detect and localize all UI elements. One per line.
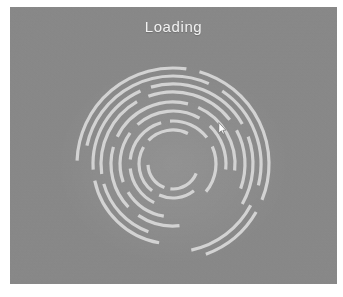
spinner-arc: [206, 147, 216, 192]
spinner-arc: [159, 191, 194, 198]
spinner-arc: [148, 165, 164, 188]
spinner-arc-group: [77, 68, 269, 254]
spinner-arcs-svg: [10, 7, 337, 284]
spinner-arc: [139, 147, 152, 191]
spinner-arc: [206, 212, 256, 254]
spinner-arc: [138, 111, 200, 125]
spinner-arc: [237, 130, 245, 188]
spinner-arc: [191, 205, 250, 250]
spinner-arc: [149, 130, 188, 140]
spinner-arc: [120, 133, 130, 182]
screen-root: Loading: [0, 0, 343, 297]
spinner-arc: [130, 123, 161, 160]
spinner-arc: [138, 215, 179, 226]
page-title: Loading: [10, 18, 337, 36]
spinner-arc: [170, 173, 196, 189]
loading-spinner: [10, 7, 337, 284]
loading-panel: Loading: [10, 7, 337, 284]
